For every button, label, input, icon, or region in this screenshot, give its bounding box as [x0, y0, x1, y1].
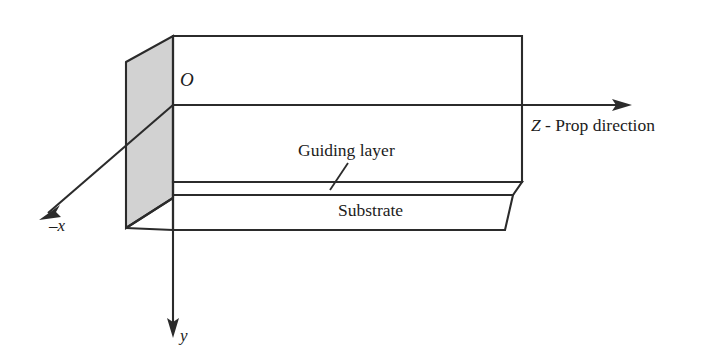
guiding-layer-strip — [173, 182, 522, 195]
neg-x-axis-label: –x — [49, 217, 65, 234]
origin-label: O — [180, 70, 194, 89]
box-front-face — [173, 36, 522, 182]
z-axis-symbol: Z — [531, 115, 541, 135]
waveguide-figure: O Z - Prop direction Guiding layer Subst… — [0, 0, 717, 357]
waveguide-diagram-svg — [0, 0, 717, 357]
shaded-end-face — [126, 36, 173, 228]
guiding-layer-left-receding-edge — [126, 228, 173, 230]
neg-x-axis-sign: – — [49, 216, 58, 235]
z-axis-description: - Prop direction — [541, 115, 655, 135]
z-axis-label: Z - Prop direction — [531, 117, 655, 135]
guiding-layer-leader-line — [330, 163, 348, 190]
substrate-label: Substrate — [338, 202, 403, 220]
neg-x-axis-symbol: x — [58, 216, 66, 235]
y-axis-label: y — [180, 327, 188, 344]
guiding-layer-label: Guiding layer — [298, 142, 395, 160]
